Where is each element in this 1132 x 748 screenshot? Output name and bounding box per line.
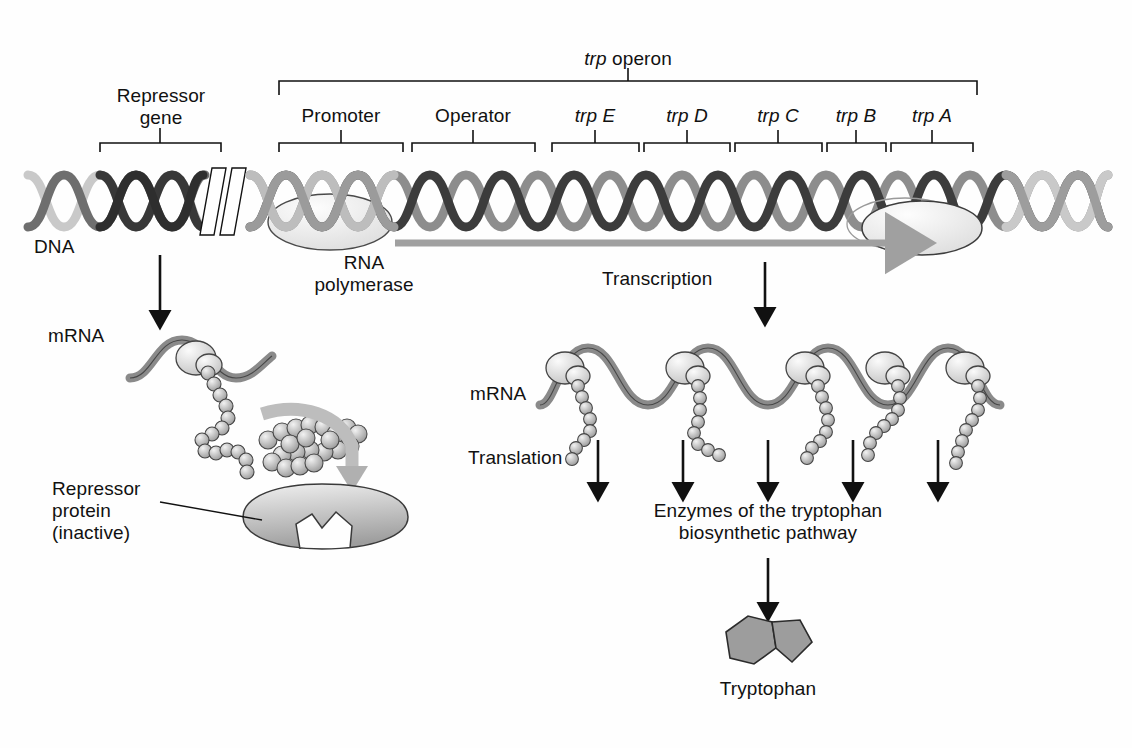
bracket-repressor-gene — [100, 128, 221, 152]
bracket-trp-operon — [279, 68, 977, 95]
mrna-ribbon-right — [540, 348, 1000, 405]
label-trp-d: trp D — [642, 105, 732, 127]
ribosome — [786, 352, 830, 386]
label-trp-c: trp C — [733, 105, 823, 127]
label-promoter: Promoter — [281, 105, 401, 127]
bracket-trp-e — [552, 130, 639, 152]
ribosome — [866, 352, 910, 386]
bracket-trp-a — [891, 130, 973, 152]
bracket-operator — [412, 130, 535, 152]
label-trp-operon: trp operon — [558, 48, 698, 70]
repressor-protein-shape — [243, 484, 408, 549]
bracket-trp-c — [735, 130, 822, 152]
label-mrna-right: mRNA — [470, 383, 550, 405]
label-repressor-protein: Repressor protein (inactive) — [52, 478, 172, 544]
label-transcription: Transcription — [602, 268, 762, 290]
ribosome — [546, 352, 590, 386]
polypeptide-chain — [688, 380, 726, 462]
label-tryptophan: Tryptophan — [688, 678, 848, 700]
label-operator: Operator — [413, 105, 533, 127]
bracket-trp-b — [827, 130, 886, 152]
figure-canvas: Repressorgene trp operon Promoter Operat… — [0, 0, 1132, 748]
label-enzymes: Enzymes of the tryptophan biosynthetic p… — [608, 500, 928, 544]
label-rna-polymerase: RNA polymerase — [300, 252, 428, 296]
bracket-promoter — [279, 130, 403, 152]
label-translation: Translation — [468, 447, 598, 469]
polypeptide-chain-left — [195, 366, 254, 479]
label-mrna-left: mRNA — [48, 325, 128, 347]
ribosome — [666, 352, 710, 386]
ribosome — [946, 352, 990, 386]
label-trp-e: trp E — [550, 105, 640, 127]
tryptophan-molecule — [726, 616, 812, 664]
bracket-trp-d — [644, 130, 730, 152]
label-repressor-gene: Repressorgene — [100, 85, 222, 129]
translation-arrow-group — [598, 440, 938, 490]
polypeptide-chain — [801, 380, 835, 465]
polypeptide-chain — [950, 380, 987, 470]
label-trp-a: trp A — [887, 105, 977, 127]
label-dna: DNA — [34, 236, 104, 258]
